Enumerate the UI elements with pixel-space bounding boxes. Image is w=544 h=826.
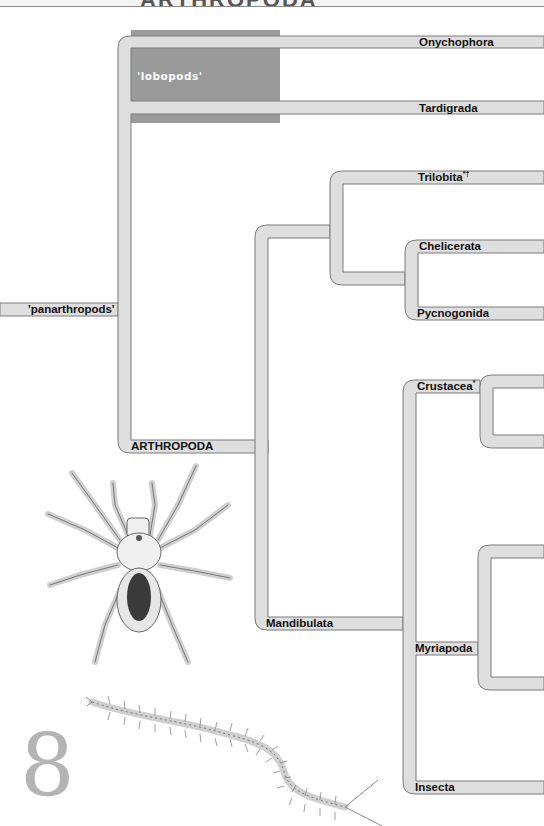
taxon-arthropoda: ARTHROPODA	[131, 440, 213, 453]
taxon-panarthropods: 'panarthropods'	[28, 303, 115, 316]
node-trilobita	[330, 171, 544, 285]
taxon-mandibulata: Mandibulata	[266, 617, 333, 630]
spider-illustration	[48, 466, 230, 662]
lobopods-label: 'lobopods'	[137, 70, 202, 82]
page-number: 8	[20, 722, 75, 808]
centipede-illustration	[86, 696, 382, 826]
node-crustacea	[480, 375, 544, 448]
node-arthropoda	[255, 225, 403, 630]
taxon-crustacea: Crustacea*	[417, 380, 475, 393]
taxon-crustacea-name: Crustacea	[417, 380, 473, 392]
taxon-trilobita-name: Trilobita	[418, 171, 463, 183]
crustacea-marks: *	[473, 379, 476, 386]
phylogenetic-tree	[0, 0, 544, 826]
taxon-onychophora: Onychophora	[419, 36, 494, 49]
taxon-pycnogonida: Pycnogonida	[417, 307, 489, 320]
taxon-myriapoda: Myriapoda	[415, 642, 473, 655]
node-myriapoda	[478, 545, 544, 690]
trilobita-marks: *†	[463, 170, 470, 177]
taxon-tardigrada: Tardigrada	[419, 102, 478, 115]
taxon-chelicerata: Chelicerata	[419, 240, 481, 253]
taxon-trilobita: Trilobita*†	[418, 171, 469, 184]
taxon-insecta: Insecta	[415, 781, 455, 794]
